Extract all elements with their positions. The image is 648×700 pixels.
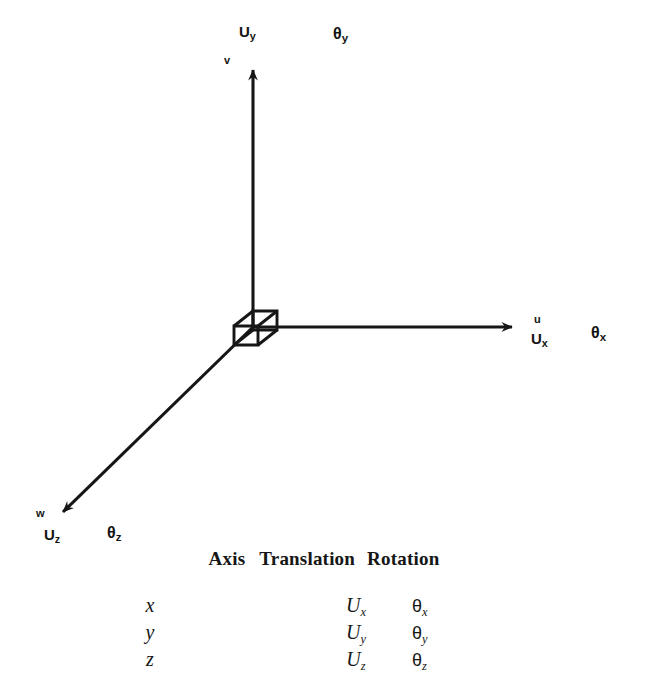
- axis-table: x Ux θx y Uy θy z Uz θz: [0, 592, 648, 673]
- cell-axis: y: [0, 619, 300, 646]
- cell-rotation: θz: [412, 646, 648, 673]
- column-header-axis: Axis: [209, 548, 246, 570]
- z-axis-letter-label: w: [36, 508, 45, 519]
- cell-translation: Uz: [300, 646, 412, 673]
- table-row: y Uy θy: [0, 619, 648, 646]
- table-row: x Ux θx: [0, 592, 648, 619]
- cell-rotation: θx: [412, 592, 648, 619]
- axis-summary-table: AxisTranslationRotation x Ux θx y Uy θy …: [0, 548, 648, 673]
- table-header-row: AxisTranslationRotation: [0, 548, 648, 570]
- cell-axis: z: [0, 646, 300, 673]
- x-axis-rotation-label: θx: [591, 325, 606, 341]
- table-row: z Uz θz: [0, 646, 648, 673]
- z-axis-rotation-label: θz: [107, 525, 121, 541]
- coordinate-axes-figure: Uy v θy u Ux θx w Uz θz AxisTranslationR…: [0, 0, 648, 700]
- x-axis-letter-label: u: [534, 314, 541, 325]
- y-axis-letter-label: v: [224, 55, 230, 66]
- column-header-translation: Translation: [259, 548, 355, 570]
- x-axis-vector-label: Ux: [531, 331, 547, 346]
- cell-translation: Uy: [300, 619, 412, 646]
- column-header-rotation: Rotation: [367, 548, 439, 570]
- y-axis-vector-label: Uy: [239, 24, 255, 39]
- cell-axis: x: [0, 592, 300, 619]
- cell-translation: Ux: [300, 592, 412, 619]
- y-axis-rotation-label: θy: [333, 26, 348, 42]
- z-axis-vector-label: Uz: [44, 527, 60, 542]
- z-axis-line: [63, 327, 253, 512]
- cell-rotation: θy: [412, 619, 648, 646]
